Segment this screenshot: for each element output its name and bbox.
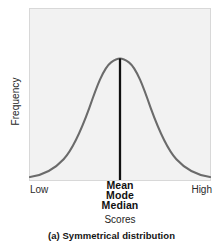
x-axis-high-label: High bbox=[191, 184, 212, 195]
x-axis-label-text: Scores bbox=[104, 214, 135, 225]
distribution-curve-svg bbox=[30, 9, 210, 180]
figure-caption: (a) Symmetrical distribution bbox=[0, 230, 223, 241]
y-axis-label: Frequency bbox=[10, 57, 21, 147]
x-axis-label: Scores bbox=[17, 214, 223, 225]
x-axis-low-label: Low bbox=[30, 184, 48, 195]
plot-area bbox=[29, 8, 211, 181]
label-median: Median bbox=[17, 200, 223, 210]
distribution-figure: Frequency Low High Mean Mode Median Scor… bbox=[0, 0, 223, 245]
